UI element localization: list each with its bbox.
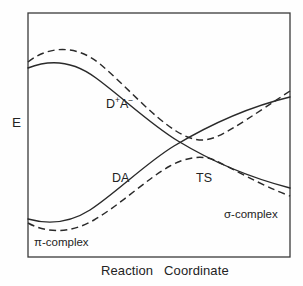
label-ct-donor: D (106, 97, 115, 111)
reaction-coordinate-diagram: E ReactionCoordinate D+A− DA TS π-comple… (0, 0, 303, 286)
x-axis-label: ReactionCoordinate (101, 264, 229, 277)
label-ct-acceptor-charge: − (128, 95, 133, 105)
curve-charge-transfer-diabatic (28, 63, 290, 188)
label-neutral-state: DA (112, 172, 129, 185)
label-transition-state: TS (196, 172, 212, 185)
x-axis-label-word-1: Reaction (101, 263, 153, 278)
x-axis-label-word-2: Coordinate (164, 263, 229, 278)
label-pi-complex: π-complex (34, 237, 89, 249)
curve-neutral-diabatic (28, 97, 290, 222)
curve-charge-transfer-adiabatic (28, 50, 290, 140)
label-charge-transfer-state: D+A− (106, 98, 133, 111)
label-sigma-complex: σ-complex (224, 209, 278, 221)
y-axis-label: E (12, 116, 21, 130)
